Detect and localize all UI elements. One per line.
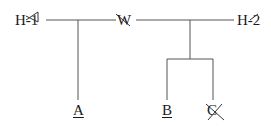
node-b: B xyxy=(162,103,172,118)
node-h2: H-2 xyxy=(237,13,260,28)
node-c: C xyxy=(207,103,217,118)
node-w: W xyxy=(117,13,131,28)
node-h1: H-1 xyxy=(15,13,38,28)
diagram-lines xyxy=(0,0,271,126)
node-a: A xyxy=(73,103,84,118)
